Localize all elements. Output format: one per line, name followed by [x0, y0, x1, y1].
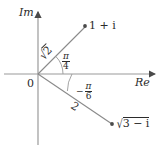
- fraction-pi-over-6: π 6: [85, 82, 93, 101]
- point-label-1-plus-i: 1 + i: [89, 20, 116, 31]
- origin-label: 0: [27, 78, 34, 89]
- radical-overbar: 3 − i: [123, 117, 150, 129]
- imaginary-axis-label: Im: [19, 7, 34, 18]
- angle-label-minus-pi-over-6: − π 6: [76, 82, 92, 101]
- fraction-pi-over-4: π 4: [62, 52, 70, 71]
- argand-diagram-figure: Im Re 0 1 + i √3 − i √2 2 π 4 − π 6: [0, 0, 162, 149]
- point-label-1-plus-i-text: 1 + i: [89, 19, 116, 32]
- negative-sign: −: [76, 87, 85, 96]
- sqrt-radical-sqrt3: √3 − i: [116, 118, 149, 130]
- fraction-numerator: π: [62, 52, 70, 61]
- fraction-denominator: 4: [62, 61, 70, 71]
- point-marker-1-plus-i: [83, 24, 87, 28]
- angle-arc-minus-pi-over-6: [67, 74, 72, 91]
- point-marker-sqrt3-minus-i: [110, 122, 114, 126]
- real-axis-label: Re: [135, 77, 150, 88]
- fraction-denominator: 6: [85, 91, 93, 101]
- point-label-sqrt3-minus-i-text: 3 − i: [123, 117, 150, 130]
- fraction-numerator: π: [85, 82, 93, 91]
- angle-label-pi-over-4: π 4: [62, 52, 70, 71]
- point-label-sqrt3-minus-i: √3 − i: [116, 118, 149, 130]
